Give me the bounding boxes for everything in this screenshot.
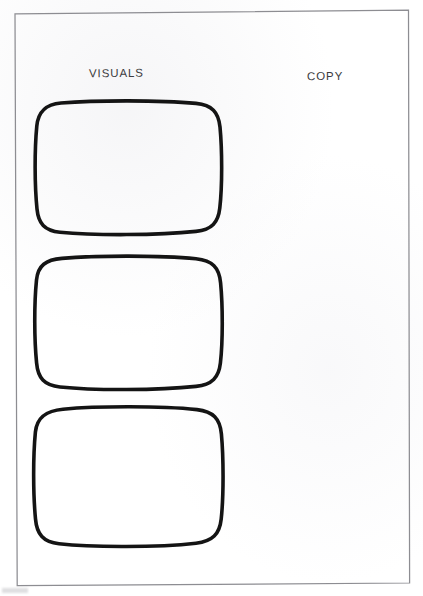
column-header-copy: COPY <box>307 71 343 83</box>
copy-panel-3[interactable] <box>240 404 400 544</box>
copy-panel-1[interactable] <box>240 100 400 235</box>
visual-panel-2[interactable] <box>34 254 223 389</box>
visual-panel-3[interactable] <box>33 404 223 544</box>
visual-panel-1[interactable] <box>35 100 223 235</box>
column-header-visuals: VISUALS <box>89 68 144 80</box>
copy-panel-2[interactable] <box>240 254 400 389</box>
storyboard-page: VISUALS COPY <box>0 0 423 596</box>
